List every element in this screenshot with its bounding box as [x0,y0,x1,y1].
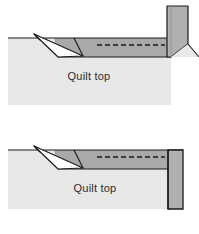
panel-top-canvas: Quilt top [0,0,199,117]
quilt-top-label: Quilt top [68,70,111,82]
diagram-panel-step-2: Quilt top [0,117,199,234]
quilt-top-label: Quilt top [74,182,117,194]
binding-band-vertical-full [168,150,183,209]
diagram-panel-step-1: Quilt top [0,0,199,117]
panel-bottom-canvas: Quilt top [0,117,199,234]
quilt-binding-figure: Quilt top Quilt top [0,0,199,234]
